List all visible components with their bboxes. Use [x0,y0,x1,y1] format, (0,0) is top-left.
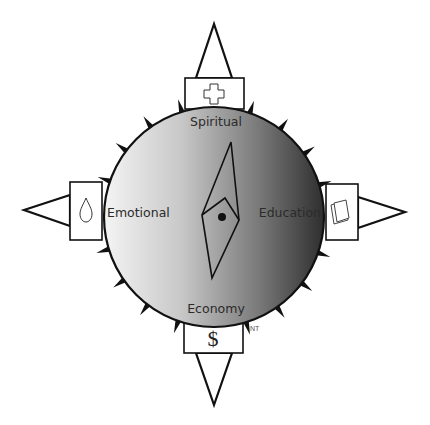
dollar-icon: $ [208,326,219,351]
compass-diagram: $ Spiritual Economy Emotional Education … [0,0,430,425]
label-education: Education [259,205,321,220]
needle-pivot [218,213,226,221]
label-emotional: Emotional [107,205,170,220]
west-pointer [24,195,70,226]
label-economy: Economy [187,301,245,316]
book-icon [331,200,349,224]
east-box [326,184,358,240]
south-pointer [196,353,232,405]
north-pointer [196,24,232,78]
north-box [185,78,244,109]
annotation-nt: NT [250,325,260,332]
east-pointer [358,197,405,228]
label-spiritual: Spiritual [190,114,242,129]
west-box [70,182,102,240]
